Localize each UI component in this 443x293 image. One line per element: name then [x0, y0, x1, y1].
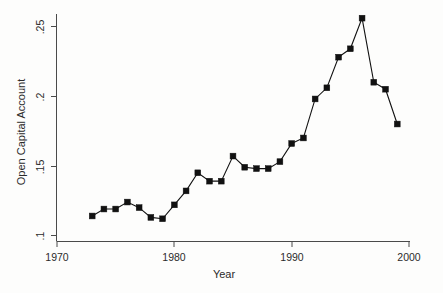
- line-chart: .25 .2 .15 .1 1970 1980 1990 2000 Year O…: [0, 0, 443, 293]
- data-point: [359, 15, 365, 21]
- data-point: [254, 166, 260, 172]
- y-axis-title: Open Capital Account: [15, 79, 27, 185]
- series-markers: [89, 15, 400, 221]
- data-point: [183, 188, 189, 194]
- data-point: [336, 54, 342, 60]
- data-point: [148, 214, 154, 220]
- y-tick-label-02: .2: [34, 92, 46, 101]
- data-point: [125, 199, 131, 205]
- data-point: [383, 86, 389, 92]
- data-point: [347, 46, 353, 52]
- data-point: [218, 178, 224, 184]
- data-point: [242, 164, 248, 170]
- data-point: [101, 206, 107, 212]
- data-point: [371, 79, 377, 85]
- x-tick-label-1970: 1970: [45, 251, 69, 263]
- data-point: [171, 202, 177, 208]
- data-point: [277, 159, 283, 165]
- data-point: [195, 170, 201, 176]
- data-point: [265, 166, 271, 172]
- data-point: [312, 96, 318, 102]
- y-tick-label-01: .1: [34, 231, 46, 240]
- data-point: [136, 205, 142, 211]
- series-group: [89, 15, 400, 221]
- data-point: [89, 213, 95, 219]
- x-tick-label-1980: 1980: [162, 251, 186, 263]
- y-tick-label-025: .25: [34, 20, 46, 35]
- data-point: [289, 141, 295, 147]
- chart-container: .25 .2 .15 .1 1970 1980 1990 2000 Year O…: [0, 0, 443, 293]
- y-tick-label-015: .15: [34, 160, 46, 175]
- data-point: [113, 206, 119, 212]
- x-tick-label-2000: 2000: [397, 251, 421, 263]
- x-axis-title: Year: [213, 268, 236, 280]
- data-point: [394, 121, 400, 127]
- x-tick-label-1990: 1990: [280, 251, 304, 263]
- data-point: [207, 178, 213, 184]
- data-point: [160, 216, 166, 222]
- data-point: [324, 85, 330, 91]
- data-point: [301, 135, 307, 141]
- data-point: [230, 153, 236, 159]
